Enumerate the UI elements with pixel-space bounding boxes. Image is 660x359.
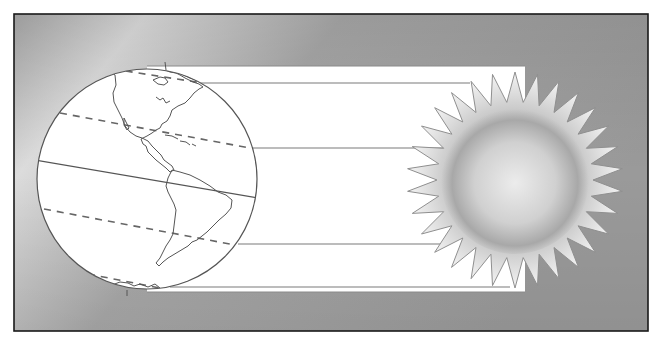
sun-earth-diagram — [0, 0, 660, 359]
sun-core — [441, 106, 589, 254]
diagram-stage — [0, 0, 660, 359]
